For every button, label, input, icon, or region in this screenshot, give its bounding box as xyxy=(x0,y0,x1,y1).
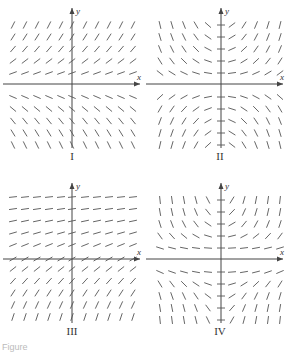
svg-text:y: y xyxy=(224,6,229,16)
svg-text:y: y xyxy=(75,6,80,16)
slope-field-panel-4: xy IV xyxy=(143,175,286,350)
panel-label-3: III xyxy=(57,325,87,337)
slope-field-panel-1: xy I xyxy=(0,0,143,175)
slope-field-panel-2: xy II xyxy=(143,0,286,175)
svg-text:y: y xyxy=(224,181,229,191)
slope-field-panel-3: xy III xyxy=(0,175,143,350)
svg-text:x: x xyxy=(136,72,141,82)
panel-label-2: II xyxy=(205,150,235,162)
panel-label-4: IV xyxy=(205,325,235,337)
svg-text:y: y xyxy=(75,181,80,191)
figure-caption: Figure xyxy=(2,342,28,352)
slope-field-plot-4: xy xyxy=(143,175,286,350)
svg-text:x: x xyxy=(136,247,141,257)
slope-field-plot-2: xy xyxy=(143,0,286,175)
slope-field-plot-1: xy xyxy=(0,0,143,175)
panel-label-1: I xyxy=(57,150,87,162)
slope-field-plot-3: xy xyxy=(0,175,143,350)
